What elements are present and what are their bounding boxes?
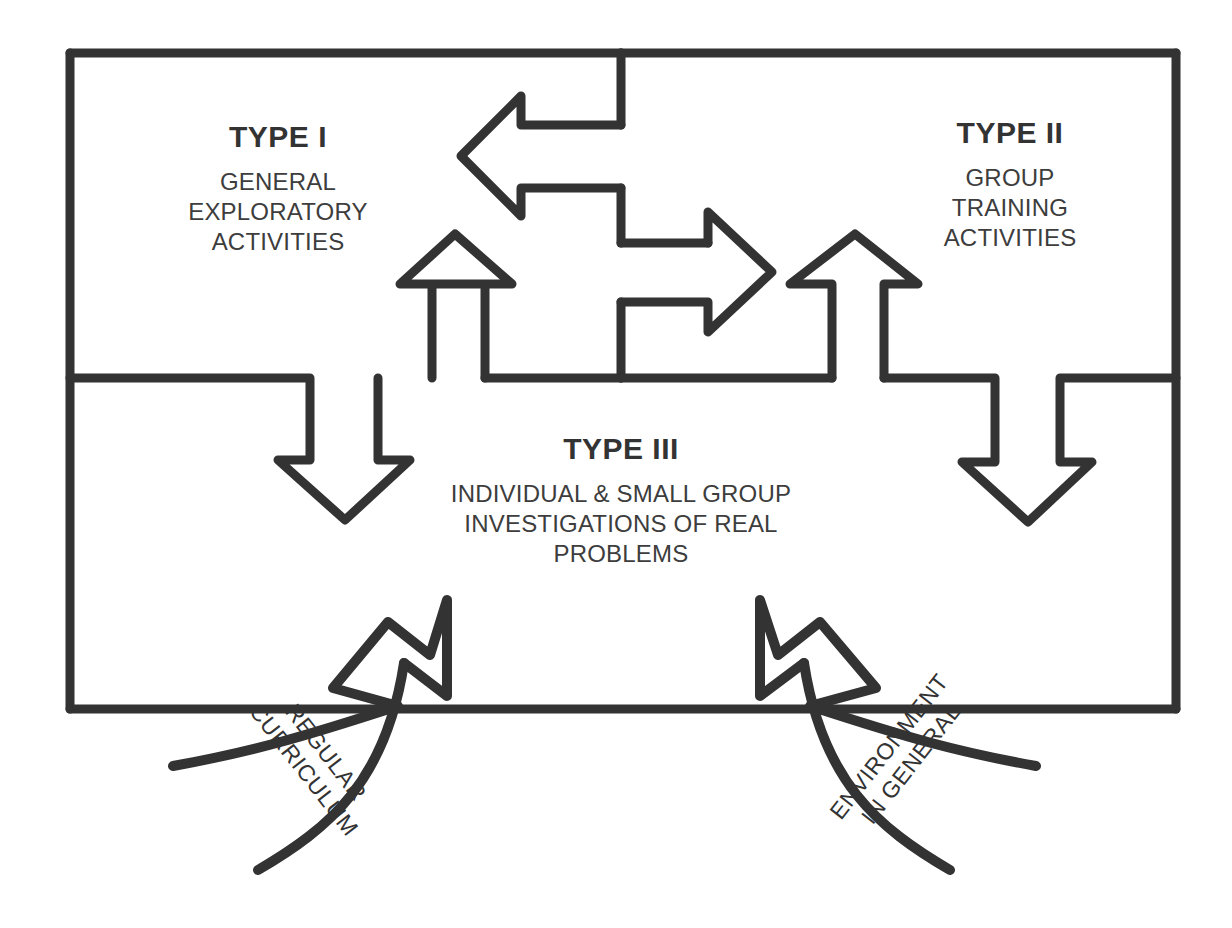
type1-heading: TYPE I — [128, 118, 428, 156]
right-pointing-arrow — [621, 212, 772, 332]
type1-body-line-2: EXPLORATORY — [128, 197, 428, 227]
type3-label-block: TYPE III INDIVIDUAL & SMALL GROUP INVEST… — [406, 430, 836, 570]
type3-body-line-2: INVESTIGATIONS OF REAL — [406, 509, 836, 539]
type2-body-line-2: TRAINING — [860, 193, 1160, 223]
type2-body-line-1: GROUP — [860, 163, 1160, 193]
type3-body-line-3: PROBLEMS — [406, 539, 836, 569]
type1-down-arrow — [70, 378, 410, 520]
enrichment-triad-diagram: TYPE I GENERAL EXPLORATORY ACTIVITIES TY… — [0, 0, 1232, 928]
type3-heading: TYPE III — [406, 430, 836, 468]
left-pointing-arrow — [461, 96, 621, 216]
type3-body-line-1: INDIVIDUAL & SMALL GROUP — [406, 479, 836, 509]
type1-body-line-1: GENERAL — [128, 167, 428, 197]
type2-body-line-3: ACTIVITIES — [860, 223, 1160, 253]
type2-label-block: TYPE II GROUP TRAINING ACTIVITIES — [860, 114, 1160, 254]
type1-label-block: TYPE I GENERAL EXPLORATORY ACTIVITIES — [128, 118, 428, 258]
type2-heading: TYPE II — [860, 114, 1160, 152]
type2-down-arrow — [884, 378, 1176, 522]
type1-body-line-3: ACTIVITIES — [128, 227, 428, 257]
type2-up-arrow — [790, 234, 918, 378]
